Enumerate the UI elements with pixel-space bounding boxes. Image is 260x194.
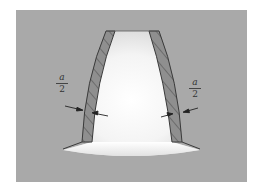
- diagram-canvas: [0, 0, 260, 194]
- left-label-numerator: a: [56, 73, 68, 82]
- left-thickness-label: a 2: [56, 73, 68, 94]
- left-label-denominator: 2: [56, 85, 68, 94]
- gear-tooth-diagram: a 2 a 2: [0, 0, 260, 194]
- right-thickness-label: a 2: [189, 78, 201, 99]
- right-label-denominator: 2: [189, 90, 201, 99]
- right-label-numerator: a: [189, 78, 201, 87]
